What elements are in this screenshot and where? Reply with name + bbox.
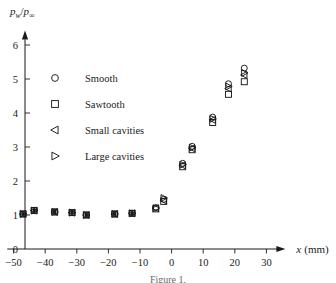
y-tick-label-5: 5 — [13, 74, 18, 85]
legend-marker-2 — [51, 126, 58, 134]
y-tick-label-3: 3 — [13, 142, 18, 153]
legend-marker-0 — [52, 75, 59, 82]
scatter-plot: −50−40−30−20−1001020300123456x(mm)pw/p∞S… — [0, 0, 336, 283]
figure-container: −50−40−30−20−1001020300123456x(mm)pw/p∞S… — [0, 0, 336, 283]
x-tick-label-1: −40 — [37, 257, 53, 268]
legend-label-0: Smooth — [85, 73, 118, 84]
x-tick-label-5: 0 — [169, 257, 174, 268]
y-tick-label-6: 6 — [13, 40, 18, 51]
y-tick-label-1: 1 — [13, 210, 18, 221]
x-axis-title: x(mm) — [295, 243, 329, 256]
y-tick-label-0: 0 — [13, 244, 18, 255]
x-tick-label-8: 30 — [261, 257, 272, 268]
x-axis-arrowhead — [276, 246, 285, 252]
y-tick-label-2: 2 — [13, 176, 18, 187]
x-tick-label-4: −10 — [132, 257, 148, 268]
figure-caption: Figure 1. — [0, 273, 336, 283]
legend-label-2: Small cavities — [85, 125, 144, 136]
y-axis-arrowhead — [22, 30, 28, 39]
x-tick-label-2: −30 — [69, 257, 85, 268]
data-point — [241, 79, 247, 85]
legend-marker-3 — [52, 152, 59, 160]
y-tick-label-4: 4 — [13, 108, 19, 119]
data-point — [225, 91, 231, 97]
x-tick-label-6: 10 — [198, 257, 209, 268]
legend-label-1: Sawtooth — [85, 99, 125, 110]
legend-label-3: Large cavities — [85, 151, 144, 162]
x-tick-label-7: 20 — [230, 257, 241, 268]
y-axis-title: pw/p∞ — [9, 5, 35, 20]
x-tick-label-0: −50 — [5, 257, 21, 268]
legend-marker-1 — [52, 101, 59, 108]
x-tick-label-3: −20 — [100, 257, 116, 268]
